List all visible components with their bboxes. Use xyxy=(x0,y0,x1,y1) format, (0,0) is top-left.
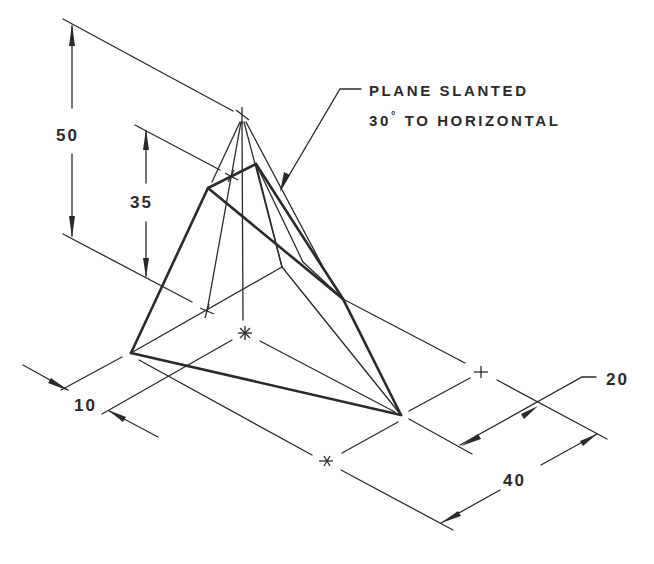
dimension-label-20: 20 xyxy=(606,370,629,389)
apex-mark-icon xyxy=(236,107,249,124)
arrowhead-icon xyxy=(580,434,597,446)
arrowhead-down-icon xyxy=(143,258,149,278)
leader-arrowhead-icon xyxy=(280,172,290,192)
dimension-label-40: 40 xyxy=(503,471,526,490)
note-line-2: 30° TO HORIZONTAL xyxy=(369,109,560,129)
extension-line-apex xyxy=(63,19,233,111)
arrowhead-icon xyxy=(461,434,481,446)
dimension-label-50: 50 xyxy=(56,126,79,145)
base-front-edge xyxy=(131,353,401,415)
arrowhead-icon xyxy=(441,511,461,523)
base-center-mark-icon xyxy=(238,326,252,340)
depth-mark-icon xyxy=(474,366,488,378)
note-callout: PLANE SLANTED 30° TO HORIZONTAL xyxy=(280,82,560,192)
note-line-1: PLANE SLANTED xyxy=(369,82,529,99)
extension-line-base xyxy=(63,234,192,302)
drawing-canvas: 50 35 xyxy=(0,0,654,564)
dimension-20: 20 xyxy=(460,370,629,446)
width-mark-icon xyxy=(319,456,333,466)
arrowhead-down-icon xyxy=(69,216,75,238)
dimension-10: 10 xyxy=(23,365,158,437)
base-mark-left-icon xyxy=(200,304,214,318)
dimension-40: 40 xyxy=(441,434,597,523)
plane-back-edge xyxy=(256,164,282,267)
dimension-label-10: 10 xyxy=(74,396,97,415)
dimension-label-35: 35 xyxy=(130,193,153,212)
arrowhead-up-icon xyxy=(69,24,75,46)
dimension-35: 35 xyxy=(130,125,220,278)
leader-line xyxy=(281,89,361,189)
arrowhead-icon xyxy=(521,406,538,419)
arrowhead-icon xyxy=(48,378,69,391)
arrowhead-icon xyxy=(108,410,126,422)
